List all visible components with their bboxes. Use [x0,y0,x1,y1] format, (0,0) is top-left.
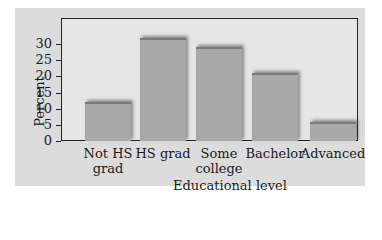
y-tick [56,60,61,61]
y-tick-label: 15 [32,86,52,99]
y-tick [56,76,61,77]
bar-bachelor [252,73,298,141]
x-tick-label-line: college [184,161,254,176]
y-tick-label: 5 [32,118,52,131]
y-tick-label: 20 [32,69,52,82]
y-tick [56,125,61,126]
x-tick-label-line: Advanced [298,146,368,161]
x-tick-label-line: grad [73,161,143,176]
y-tick-label: 10 [32,102,52,115]
bar-some-college [196,47,242,141]
y-tick [56,93,61,94]
x-axis-label: Educational level [160,178,300,193]
y-tick-label: 30 [32,37,52,50]
bar-advanced [310,122,356,141]
y-tick-label: 0 [32,134,52,147]
bar-hs-grad [140,38,186,141]
y-tick-label: 25 [32,53,52,66]
y-tick [56,141,61,142]
x-tick-label: Advanced [298,146,368,161]
bar-not-hs-grad [85,102,131,141]
y-tick [56,109,61,110]
y-tick [56,44,61,45]
